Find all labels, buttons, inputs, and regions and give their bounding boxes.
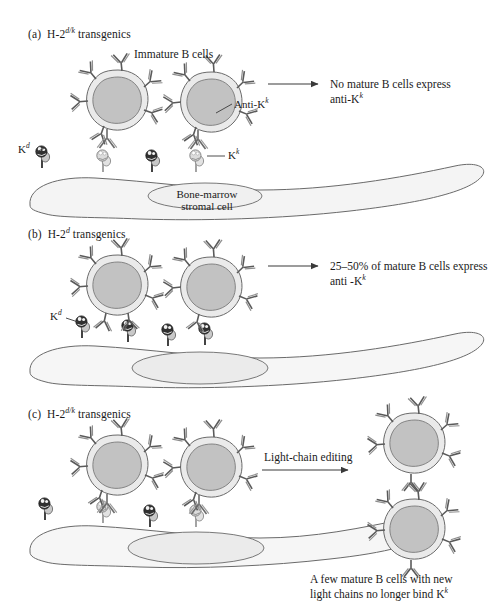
stromal-cell-a <box>30 164 484 219</box>
mature-b-cell-c2 <box>367 482 461 577</box>
panel-a-letter: (a) <box>28 28 41 40</box>
mature-b-cell-c1 <box>367 396 461 491</box>
panel-b-outcome: 25–50% of mature B cells express anti -K… <box>330 259 487 289</box>
stromal-cell-c <box>30 516 438 567</box>
panel-c-genotype: H-2d/k transgenics <box>44 408 131 420</box>
kd-label-b: Kd <box>50 310 62 322</box>
immature-b-cell-a1 <box>70 53 163 148</box>
panel-b-genotype: H-2d transgenics <box>45 228 126 240</box>
panel-b-title: (b) H-2d transgenics <box>28 228 126 240</box>
stromal-nucleus-b <box>132 352 268 384</box>
panel-b-letter: (b) <box>28 228 42 240</box>
light-chain-editing-label: Light-chain editing <box>264 451 352 463</box>
kd-leader-a <box>36 148 45 152</box>
kd-label-a: Kd <box>18 143 30 155</box>
anti-kk-leader-a <box>216 104 232 113</box>
kd-leader-b <box>66 318 78 322</box>
panel-a-outcome: No mature B cells express anti-Kk <box>330 77 451 107</box>
immature-b-cell-b1 <box>70 238 164 331</box>
panel-a-title: (a) H-2d/k transgenics <box>28 28 131 40</box>
stromal-cell-label-a: Bone-marrow stromal cell <box>162 188 252 212</box>
figure-canvas: (a) H-2d/k transgenics Immature B cells … <box>0 0 501 611</box>
anti-kk-label: Anti-Kk <box>234 98 269 110</box>
immature-b-cell-b2 <box>163 239 258 332</box>
panel-c-caption: A few mature B cells with new light chai… <box>310 572 452 602</box>
stromal-cell-b <box>30 332 484 387</box>
panel-c-letter: (c) <box>28 408 41 420</box>
stromal-nucleus-c <box>128 532 264 564</box>
panel-c-graphics <box>30 396 461 577</box>
panel-a-genotype: H-2d/k transgenics <box>44 28 131 40</box>
kk-label-a: Kk <box>228 149 239 161</box>
immature-b-cell-c1 <box>70 418 164 513</box>
panel-c-title: (c) H-2d/k transgenics <box>28 408 131 420</box>
immature-b-cells-label: Immature B cells <box>134 48 213 60</box>
immature-b-cell-c2 <box>163 419 258 514</box>
